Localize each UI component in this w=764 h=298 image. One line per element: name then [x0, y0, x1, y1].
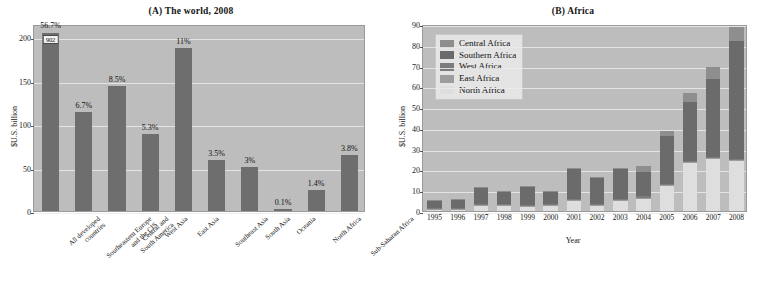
panel-a-bar-9[interactable]: 3.8%: [341, 155, 358, 211]
panel-b-title-text: Africa: [567, 6, 594, 16]
legend-item-east-africa[interactable]: East Africa: [440, 73, 516, 85]
panel-b-x-tick-2005: 2005: [655, 214, 678, 222]
panel-a-bar-2[interactable]: 8.5%: [108, 86, 125, 211]
panel-b-stacked-bar-2007[interactable]: [706, 67, 720, 211]
panel-b-segment-central-africa: [543, 191, 557, 192]
panel-b-stacked-bar-1996[interactable]: [451, 199, 465, 211]
panel-a-bar-3[interactable]: 5.3%: [142, 134, 159, 211]
legend-item-central-africa[interactable]: Central Africa: [440, 38, 516, 50]
panel-a-title-tag: (A): [149, 6, 163, 16]
panel-b-segment-west-africa: [451, 208, 465, 209]
panel-b-segment-north-africa: [729, 161, 743, 211]
panel-b-segment-central-africa: [636, 166, 650, 171]
panel-a-x-tick-line: North Africa: [331, 215, 363, 245]
panel-b-segment-west-africa: [520, 205, 534, 206]
panel-b-gridline: [423, 109, 746, 110]
panel-a-bar-value-label: 11%: [176, 38, 190, 46]
panel-b-y-tickmark: [420, 88, 423, 89]
panel-a-x-tick-8: North Africa: [331, 215, 363, 245]
panel-b-x-axis-label: Year: [382, 236, 764, 245]
panel-b-stacked-bar-2004[interactable]: [636, 166, 650, 211]
panel-b-x-tick-2000: 2000: [539, 214, 562, 222]
panel-b-y-tick-20: 20: [412, 167, 420, 175]
figure-container: (A) The world, 2008 $U.S. billion 050100…: [0, 0, 764, 298]
legend-swatch-icon: [440, 51, 454, 59]
panel-a-bar-5[interactable]: 3.5%: [208, 160, 225, 211]
panel-b-stacked-bar-2003[interactable]: [613, 168, 627, 211]
panel-a-y-tickmark: [31, 39, 34, 40]
panel-b-segment-east-africa: [729, 160, 743, 161]
panel-b-x-tick-2004: 2004: [632, 214, 655, 222]
panel-b-segment-southern-africa: [729, 41, 743, 159]
panel-b-segment-east-africa: [683, 162, 697, 163]
panel-b-y-tick-70: 70: [412, 64, 420, 72]
panel-b-y-tickmark: [420, 130, 423, 131]
panel-a-y-tick-100: 100: [19, 122, 31, 130]
panel-b-gridline: [423, 68, 746, 69]
panel-a-y-tickmark: [31, 126, 34, 127]
panel-a-bar-value-label: 1.4%: [308, 180, 325, 188]
panel-b-segment-north-africa: [683, 163, 697, 211]
panel-b-segment-north-africa: [660, 186, 674, 211]
panel-a-axis-break-marker: 902: [42, 35, 58, 44]
panel-b-segment-west-africa: [497, 204, 511, 205]
panel-a-plot-area: 05010015020056.7%9026.7%8.5%5.3%11%3.5%3…: [33, 25, 365, 212]
panel-b-x-tick-1999: 1999: [516, 214, 539, 222]
panel-b-segment-north-africa: [567, 201, 581, 211]
panel-a-y-tickmark: [31, 213, 34, 214]
panel-b-y-tickmark: [420, 109, 423, 110]
panel-b-segment-north-africa: [451, 210, 465, 211]
panel-b-segment-central-africa: [567, 168, 581, 169]
panel-a-bar-4[interactable]: 11%: [175, 48, 192, 211]
panel-b-segment-east-africa: [636, 198, 650, 199]
panel-b-segment-central-africa: [706, 67, 720, 79]
panel-a-bar-value-label: 0.1%: [275, 199, 292, 207]
panel-b-segment-west-africa: [706, 157, 720, 158]
panel-a-bar-6[interactable]: 3%: [241, 167, 258, 211]
panel-b-segment-southern-africa: [520, 187, 534, 205]
panel-a-bar-7[interactable]: 0.1%: [274, 209, 291, 211]
panel-b-stacked-bar-1997[interactable]: [474, 187, 488, 211]
panel-b-stacked-bar-2008[interactable]: [729, 27, 743, 211]
panel-b-y-tickmark: [420, 47, 423, 48]
panel-b-stacked-bar-2002[interactable]: [590, 177, 604, 211]
panel-b-stacked-bar-1998[interactable]: [497, 191, 511, 211]
panel-a-bar-0[interactable]: 56.7%902: [42, 33, 59, 211]
panel-b-segment-east-africa: [543, 205, 557, 206]
panel-b-x-tick-2002: 2002: [586, 214, 609, 222]
panel-b-segment-west-africa: [636, 196, 650, 197]
panel-b-y-tick-90: 90: [412, 22, 420, 30]
panel-a-y-tick-200: 200: [19, 35, 31, 43]
panel-b-stacked-bar-2001[interactable]: [567, 168, 581, 211]
panel-b-segment-east-africa: [520, 206, 534, 207]
panel-b-stacked-bar-2000[interactable]: [543, 191, 557, 211]
panel-b-segment-east-africa: [497, 205, 511, 206]
legend-item-north-africa[interactable]: North Africa: [440, 84, 516, 96]
panel-a-x-tick-line: Oceania: [295, 215, 317, 236]
panel-b-segment-west-africa: [567, 199, 581, 200]
panel-b-plot-area: Central AfricaSouthern AfricaWest Africa…: [422, 25, 747, 212]
panel-b-segment-north-africa: [497, 206, 511, 211]
panel-b-title: (B) Africa: [382, 6, 764, 16]
legend-item-southern-africa[interactable]: Southern Africa: [440, 50, 516, 62]
panel-b-segment-southern-africa: [636, 172, 650, 197]
panel-b-stacked-bar-2006[interactable]: [683, 93, 697, 211]
panel-a-x-tick-line: East Asia: [196, 215, 221, 239]
panel-b-segment-southern-africa: [613, 169, 627, 198]
panel-b-segment-southern-africa: [543, 192, 557, 203]
panel-b-segment-west-africa: [474, 204, 488, 205]
panel-b-segment-southern-africa: [497, 192, 511, 203]
panel-a-bar-1[interactable]: 6.7%: [75, 112, 92, 211]
panel-a-x-tick-line: Southeast Asia: [233, 215, 269, 249]
panel-b-segment-southern-africa: [427, 201, 441, 208]
panel-b-segment-north-africa: [590, 206, 604, 211]
panel-b-x-tick-2007: 2007: [702, 214, 725, 222]
panel-b-stacked-bar-1995[interactable]: [427, 200, 441, 211]
panel-b-segment-north-africa: [520, 207, 534, 211]
panel-a-x-tick-4: East Asia: [196, 215, 221, 239]
panel-b-segment-central-africa: [683, 93, 697, 102]
panel-b-stacked-bar-1999[interactable]: [520, 186, 534, 211]
panel-a-bar-8[interactable]: 1.4%: [308, 190, 325, 211]
panel-b-gridline: [423, 151, 746, 152]
panel-b-stacked-bar-2005[interactable]: [660, 131, 674, 211]
